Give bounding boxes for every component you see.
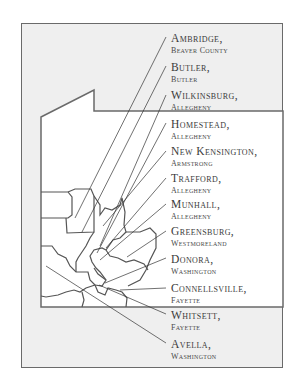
- label-munhall: Munhall, Allegheny: [171, 199, 220, 221]
- county-name: Westmoreland: [171, 240, 234, 248]
- county-name: Washington: [171, 353, 216, 361]
- county-name: Butler: [171, 76, 210, 84]
- county-name: Allegheny: [171, 187, 221, 195]
- label-homestead: Homestead, Allegheny: [171, 119, 230, 141]
- label-donora: Donora, Washington: [171, 254, 216, 276]
- city-name: Connellsville,: [171, 283, 247, 295]
- city-name: Whitsett,: [171, 310, 221, 322]
- label-connellsville: Connellsville, Fayette: [171, 283, 247, 305]
- label-ambridge: Ambridge, Beaver County: [171, 33, 228, 55]
- label-butler: Butler, Butler: [171, 62, 210, 84]
- label-greensburg: Greensburg, Westmoreland: [171, 226, 234, 248]
- label-new-kensington: New Kensington, Armstrong: [171, 146, 257, 168]
- county-name: Fayette: [171, 297, 247, 305]
- county-name: Allegheny: [171, 133, 230, 141]
- city-name: Avella,: [171, 339, 216, 351]
- county-name: Fayette: [171, 324, 221, 332]
- county-map: [0, 0, 299, 390]
- city-name: Donora,: [171, 254, 216, 266]
- county-name: Allegheny: [171, 213, 220, 221]
- county-name: Beaver County: [171, 47, 228, 55]
- label-wilkinsburg: Wilkinsburg, Allegheny: [171, 90, 238, 112]
- city-name: Munhall,: [171, 199, 220, 211]
- label-whitsett: Whitsett, Fayette: [171, 310, 221, 332]
- state-outline: [41, 90, 283, 307]
- label-trafford: Trafford, Allegheny: [171, 173, 221, 195]
- city-name: New Kensington,: [171, 146, 257, 158]
- city-name: Wilkinsburg,: [171, 90, 238, 102]
- county-name: Allegheny: [171, 104, 238, 112]
- county-name: Armstrong: [171, 160, 257, 168]
- city-name: Homestead,: [171, 119, 230, 131]
- city-name: Trafford,: [171, 173, 221, 185]
- city-name: Butler,: [171, 62, 210, 74]
- label-avella: Avella, Washington: [171, 339, 216, 361]
- city-name: Ambridge,: [171, 33, 228, 45]
- city-name: Greensburg,: [171, 226, 234, 238]
- county-name: Washington: [171, 268, 216, 276]
